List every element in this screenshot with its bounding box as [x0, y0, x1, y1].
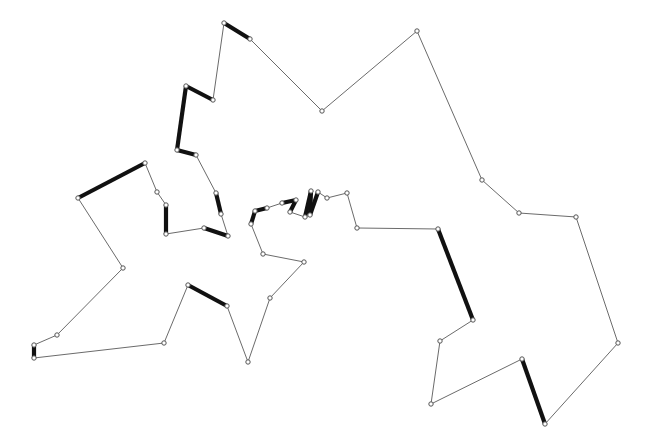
- polygon-vertex-marker: [543, 422, 547, 426]
- polygon-vertex-marker: [222, 21, 226, 25]
- polygon-vertex-marker: [202, 226, 206, 230]
- polygon-edge-thick: [204, 228, 228, 236]
- polygon-vertex-marker: [436, 227, 440, 231]
- polygon-edge-thin: [482, 180, 519, 213]
- polygon-vertex-marker: [325, 196, 329, 200]
- polygon-edge-thin: [322, 31, 417, 111]
- polygon-vertex-marker: [175, 148, 179, 152]
- polygon-edge-thin: [166, 228, 204, 234]
- polygon-vertex-marker: [76, 196, 80, 200]
- polygon-vertex-marker: [155, 190, 159, 194]
- polygon-vertex-marker: [429, 402, 433, 406]
- polygon-edge-thin: [263, 254, 304, 262]
- polygon-vertex-marker: [253, 209, 257, 213]
- polygon-edge-thin: [227, 306, 248, 362]
- polygon-vertex-marker: [345, 191, 349, 195]
- thick-edges-group: [34, 23, 545, 424]
- polygon-vertex-marker: [32, 343, 36, 347]
- polygon-edge-thin: [250, 39, 322, 111]
- polygon-edge-thin: [34, 335, 57, 345]
- polygon-edge-thin: [34, 343, 164, 358]
- polygon-vertex-marker: [121, 266, 125, 270]
- polygon-vertex-marker: [186, 283, 190, 287]
- polygon-vertex-marker: [246, 360, 250, 364]
- polygon-edge-thin: [213, 23, 224, 100]
- polygon-edge-thin: [440, 320, 473, 341]
- polygon-vertex-marker: [616, 341, 620, 345]
- polygon-diagram: [0, 0, 646, 446]
- polygon-vertex-marker: [302, 260, 306, 264]
- polygon-edge-thin: [78, 198, 123, 268]
- polygon-edge-thick: [186, 86, 213, 100]
- polygon-edge-thin: [431, 341, 440, 404]
- polygon-vertex-marker: [303, 215, 307, 219]
- polygon-edge-thick: [78, 163, 145, 198]
- polygon-vertex-marker: [265, 206, 269, 210]
- polygon-vertex-marker: [32, 356, 36, 360]
- polygon-vertex-marker: [261, 252, 265, 256]
- polygon-edge-thin: [431, 359, 522, 404]
- vertices-group: [32, 21, 620, 426]
- polygon-vertex-marker: [288, 210, 292, 214]
- polygon-edge-thin: [417, 31, 482, 180]
- polygon-vertex-marker: [248, 37, 252, 41]
- polygon-vertex-marker: [164, 203, 168, 207]
- polygon-edge-thick: [224, 23, 250, 39]
- polygon-vertex-marker: [184, 84, 188, 88]
- polygon-edge-thick: [188, 285, 227, 306]
- polygon-vertex-marker: [320, 109, 324, 113]
- polygon-edge-thick: [177, 86, 186, 150]
- polygon-vertex-marker: [249, 222, 253, 226]
- polygon-edge-thin: [545, 343, 618, 424]
- polygon-vertex-marker: [214, 191, 218, 195]
- polygon-vertex-marker: [415, 29, 419, 33]
- polygon-edge-thin: [327, 193, 347, 198]
- polygon-edge-thin: [519, 213, 576, 217]
- polygon-edge-thin: [347, 193, 357, 228]
- polygon-vertex-marker: [517, 211, 521, 215]
- polygon-edge-thin: [576, 217, 618, 343]
- polygon-vertex-marker: [164, 232, 168, 236]
- polygon-vertex-marker: [225, 304, 229, 308]
- polygon-vertex-marker: [226, 234, 230, 238]
- polygon-edge-thick: [177, 150, 196, 155]
- polygon-vertex-marker: [316, 190, 320, 194]
- polygon-vertex-marker: [471, 318, 475, 322]
- polygon-edge-thick: [216, 193, 221, 214]
- polygon-edge-thin: [57, 268, 123, 335]
- polygon-vertex-marker: [268, 296, 272, 300]
- polygon-edge-thin: [270, 262, 304, 298]
- polygon-edge-thin: [164, 285, 188, 343]
- polygon-vertex-marker: [355, 226, 359, 230]
- polygon-vertex-marker: [219, 212, 223, 216]
- polygon-edge-thin: [251, 224, 263, 254]
- polygon-vertex-marker: [308, 213, 312, 217]
- polygon-vertex-marker: [309, 189, 313, 193]
- polygon-vertex-marker: [143, 161, 147, 165]
- polygon-vertex-marker: [55, 333, 59, 337]
- polygon-vertex-marker: [438, 339, 442, 343]
- polygon-vertex-marker: [194, 153, 198, 157]
- polygon-vertex-marker: [520, 357, 524, 361]
- polygon-edge-thin: [357, 228, 438, 229]
- polygon-edge-thin: [145, 163, 157, 192]
- polygon-edge-thick: [522, 359, 545, 424]
- polygon-vertex-marker: [294, 198, 298, 202]
- polygon-vertex-marker: [162, 341, 166, 345]
- polygon-vertex-marker: [480, 178, 484, 182]
- polygon-edge-thin: [248, 298, 270, 362]
- polygon-edge-thick: [438, 229, 473, 320]
- polygon-vertex-marker: [211, 98, 215, 102]
- polygon-vertex-marker: [280, 201, 284, 205]
- thin-edges-group: [34, 23, 618, 424]
- polygon-edge-thin: [196, 155, 216, 193]
- figure-canvas: [0, 0, 646, 446]
- polygon-vertex-marker: [574, 215, 578, 219]
